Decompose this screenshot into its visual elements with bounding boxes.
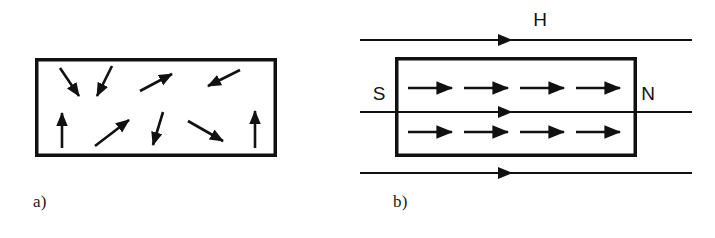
figure-canvas: H S N — [0, 0, 715, 238]
domain-arrow-7 — [153, 112, 163, 145]
field-strength-label: H — [533, 9, 547, 30]
panel-b-caption: b) — [393, 192, 408, 212]
north-pole-label: N — [641, 83, 655, 104]
panel-b-group: H S N — [360, 9, 692, 173]
domain-arrow-2 — [97, 66, 112, 96]
panel-b-specimen-box — [397, 59, 636, 156]
panel-a-group — [37, 60, 276, 156]
domain-arrow-3 — [140, 74, 172, 91]
south-pole-label: S — [373, 83, 386, 104]
domain-arrow-8 — [188, 121, 223, 141]
domain-arrow-6 — [95, 120, 129, 146]
figure-container: H S N a) b) — [0, 0, 715, 238]
panel-a-domain-arrows — [60, 66, 255, 148]
panel-a-caption: a) — [33, 192, 47, 212]
panel-a-specimen-box — [37, 60, 276, 156]
domain-arrow-4 — [208, 70, 240, 86]
domain-arrow-1 — [60, 68, 79, 96]
